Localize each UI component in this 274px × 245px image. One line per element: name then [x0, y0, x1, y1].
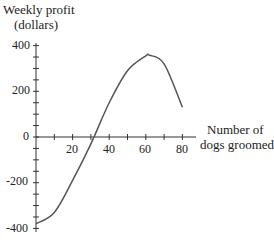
plot-area: [0, 0, 274, 245]
